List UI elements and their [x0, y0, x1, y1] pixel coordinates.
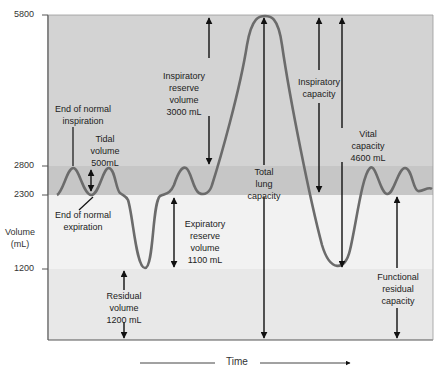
label-functional-residual-capacity: Functional residual capacity	[374, 271, 422, 307]
y-axis-title: Volume (mL)	[0, 226, 40, 250]
tick-label-1200: 1200	[2, 263, 34, 273]
label-tidal-volume: Tidal volume 500mL	[80, 133, 130, 169]
label-residual-volume: Residual volume 1200 mL	[100, 290, 148, 326]
x-axis-title: Time	[226, 356, 248, 367]
label-inspiratory-reserve-volume: Inspiratory reserve volume 3000 mL	[155, 70, 213, 118]
label-end-normal-expiration: End of normal expiration	[48, 209, 118, 233]
label-expiratory-reserve-volume: Expiratory reserve volume 1100 mL	[176, 218, 234, 266]
label-total-lung-capacity: Total lung capacity	[246, 166, 282, 202]
spirogram-plot	[0, 0, 439, 369]
label-vital-capacity: Vital capacity 4600 mL	[344, 128, 392, 164]
label-end-normal-inspiration: End of normal inspiration	[48, 103, 118, 127]
tick-label-2800: 2800	[2, 160, 34, 170]
label-inspiratory-capacity: Inspiratory capacity	[296, 76, 342, 100]
tick-label-5800: 5800	[2, 9, 34, 19]
tick-label-2300: 2300	[2, 189, 34, 199]
spirogram-diagram: 5800 2800 2300 1200 Volume (mL) End of n…	[0, 0, 439, 369]
